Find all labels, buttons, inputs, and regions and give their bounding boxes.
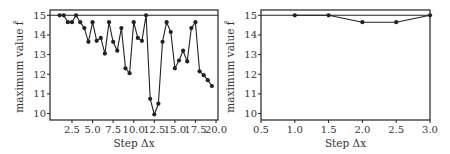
y-axis-label: maximum value f̂ <box>13 20 25 113</box>
data-point-marker <box>82 26 86 30</box>
x-tick-label: 15.0 <box>164 124 186 135</box>
right-chart-panel: 1011121314150.51.01.52.02.53.0Step Δxmax… <box>224 10 438 149</box>
y-tick-label: 13 <box>244 49 257 60</box>
y-tick-label: 15 <box>33 10 46 21</box>
x-tick-label: 3.0 <box>422 124 438 135</box>
y-tick-label: 12 <box>33 69 46 80</box>
data-point-marker <box>78 20 82 24</box>
y-tick-label: 15 <box>244 10 257 21</box>
x-tick-label: 17.5 <box>184 124 206 135</box>
data-point-marker <box>132 20 136 24</box>
y-tick-label: 14 <box>33 29 46 40</box>
x-tick-label: 2.0 <box>354 124 370 135</box>
y-tick-label: 11 <box>244 88 257 99</box>
data-point-marker <box>95 39 99 43</box>
data-point-marker <box>144 13 148 17</box>
x-tick-label: 5.0 <box>85 124 101 135</box>
y-tick-label: 11 <box>33 88 46 99</box>
plot-area-frame <box>261 10 430 120</box>
data-point-marker <box>90 20 94 24</box>
data-point-marker <box>160 40 164 44</box>
x-axis-label: Step Δx <box>325 137 366 149</box>
data-point-marker <box>136 36 140 40</box>
y-tick-label: 10 <box>33 108 46 119</box>
data-point-marker <box>197 69 201 73</box>
data-point-marker <box>206 78 210 82</box>
data-point-marker <box>127 71 131 75</box>
data-point-marker <box>70 20 74 24</box>
data-point-marker <box>62 13 66 17</box>
data-point-marker <box>156 102 160 106</box>
data-point-marker <box>119 26 123 30</box>
y-tick-label: 12 <box>244 69 257 80</box>
data-point-marker <box>185 59 189 63</box>
data-point-marker <box>74 13 78 17</box>
x-tick-label: 7.5 <box>105 124 121 135</box>
data-point-marker <box>165 20 169 24</box>
x-tick-label: 20.0 <box>205 124 227 135</box>
data-point-marker <box>58 13 62 17</box>
data-point-marker <box>169 30 173 34</box>
data-point-marker <box>99 36 103 40</box>
data-point-marker <box>107 20 111 24</box>
data-point-marker <box>103 52 107 56</box>
data-point-marker <box>394 20 398 24</box>
data-point-marker <box>66 20 70 24</box>
x-tick-label: 10.0 <box>123 124 145 135</box>
x-axis-label: Step Δx <box>113 137 154 149</box>
data-point-marker <box>86 40 90 44</box>
data-point-marker <box>360 20 364 24</box>
data-point-marker <box>181 49 185 53</box>
x-tick-label: 1.0 <box>287 124 303 135</box>
y-tick-label: 14 <box>244 29 257 40</box>
x-tick-label: 0.5 <box>253 124 269 135</box>
data-point-marker <box>428 13 432 17</box>
data-point-marker <box>123 66 127 70</box>
data-point-marker <box>111 40 115 44</box>
data-point-marker <box>173 66 177 70</box>
y-tick-label: 13 <box>33 49 46 60</box>
data-point-marker <box>177 58 181 62</box>
left-chart-panel: 1011121314152.55.07.510.012.515.017.520.… <box>13 10 227 149</box>
data-point-marker <box>202 73 206 77</box>
data-point-marker <box>152 112 156 116</box>
data-point-marker <box>189 26 193 30</box>
x-tick-label: 2.5 <box>64 124 80 135</box>
x-tick-label: 1.5 <box>321 124 337 135</box>
y-tick-label: 10 <box>244 108 257 119</box>
y-axis-label: maximum value f̂ <box>224 20 236 113</box>
chart-canvas: 1011121314152.55.07.510.012.515.017.520.… <box>0 0 450 154</box>
x-tick-label: 2.5 <box>388 124 404 135</box>
data-point-marker <box>327 13 331 17</box>
data-point-marker <box>210 84 214 88</box>
data-point-marker <box>193 20 197 24</box>
data-point-marker <box>140 39 144 43</box>
x-tick-label: 12.5 <box>143 124 165 135</box>
data-point-marker <box>148 97 152 101</box>
data-line <box>60 15 212 114</box>
data-point-marker <box>115 49 119 53</box>
data-point-marker <box>293 13 297 17</box>
